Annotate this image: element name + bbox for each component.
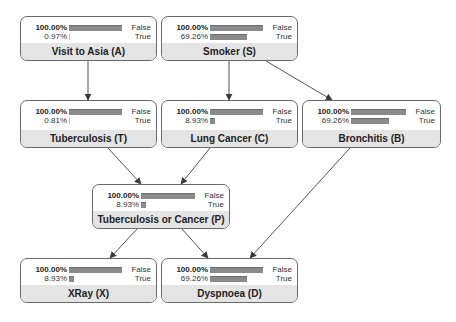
state-row-true: 8.93% True (162, 116, 297, 125)
state-row-false: 100.00% False (21, 23, 156, 32)
belief-bars: 100.00% False 8.93% True (21, 259, 156, 286)
node-p[interactable]: 100.00% False 8.93% True Tuberculosis or… (92, 184, 230, 229)
state-row-true: 0.97% True (21, 32, 156, 41)
state-label: True (276, 116, 292, 125)
node-b[interactable]: 100.00% False 69.26% True Bronchitis (B) (302, 100, 441, 148)
edge-p-to-x (110, 229, 137, 258)
belief-bar (69, 267, 122, 273)
state-label: False (131, 23, 151, 32)
state-label: True (135, 32, 151, 41)
belief-bar (351, 109, 406, 115)
belief-bars: 100.00% False 69.26% True (162, 259, 297, 286)
state-row-false: 100.00% False (162, 107, 297, 116)
state-label: True (276, 274, 292, 283)
state-percent: 8.93% (166, 116, 208, 125)
state-percent: 100.00% (25, 107, 67, 116)
state-row-true: 8.93% True (21, 274, 156, 283)
belief-bar (351, 118, 389, 124)
state-row-true: 8.93% True (93, 200, 229, 209)
node-title: Tuberculosis or Cancer (P) (93, 211, 229, 228)
belief-bars: 100.00% False 0.81% True (21, 101, 156, 128)
belief-bars: 100.00% False 0.97% True (21, 17, 156, 44)
state-percent: 100.00% (25, 265, 67, 274)
belief-bar (69, 25, 122, 31)
state-percent: 100.00% (166, 107, 208, 116)
belief-bar (141, 202, 146, 208)
edge-b-to-d (250, 148, 350, 258)
node-t[interactable]: 100.00% False 0.81% True Tuberculosis (T… (20, 100, 157, 148)
belief-bar (69, 109, 122, 115)
state-percent: 69.26% (166, 274, 208, 283)
state-row-true: 0.81% True (21, 116, 156, 125)
node-d[interactable]: 100.00% False 69.26% True Dyspnoea (D) (161, 258, 298, 303)
state-percent: 100.00% (25, 23, 67, 32)
node-title: Dyspnoea (D) (162, 285, 297, 302)
state-percent: 100.00% (166, 23, 208, 32)
belief-bar (210, 109, 263, 115)
belief-bar (210, 34, 247, 40)
node-x[interactable]: 100.00% False 8.93% True XRay (X) (20, 258, 157, 303)
state-percent: 0.97% (25, 32, 67, 41)
state-label: True (135, 116, 151, 125)
belief-bar (69, 34, 70, 40)
state-row-false: 100.00% False (162, 23, 297, 32)
state-label: False (131, 107, 151, 116)
node-c[interactable]: 100.00% False 8.93% True Lung Cancer (C) (161, 100, 298, 148)
state-percent: 0.81% (25, 116, 67, 125)
state-label: True (419, 116, 435, 125)
state-label: False (204, 191, 224, 200)
state-label: False (131, 265, 151, 274)
state-label: True (208, 200, 224, 209)
belief-bar (210, 118, 215, 124)
edge-s-to-b (266, 61, 332, 100)
belief-bar (141, 193, 195, 199)
node-title: Smoker (S) (162, 43, 297, 60)
node-title: Visit to Asia (A) (21, 43, 156, 60)
state-percent: 100.00% (166, 265, 208, 274)
state-row-false: 100.00% False (21, 107, 156, 116)
state-row-true: 69.26% True (162, 32, 297, 41)
belief-bar (210, 25, 263, 31)
state-row-false: 100.00% False (21, 265, 156, 274)
state-row-false: 100.00% False (162, 265, 297, 274)
state-label: False (415, 107, 435, 116)
belief-bar (210, 267, 263, 273)
node-title: Bronchitis (B) (303, 130, 440, 147)
belief-bars: 100.00% False 8.93% True (162, 101, 297, 128)
state-percent: 8.93% (97, 200, 139, 209)
state-label: True (276, 32, 292, 41)
edge-p-to-d (182, 229, 208, 258)
node-a[interactable]: 100.00% False 0.97% True Visit to Asia (… (20, 16, 157, 61)
state-row-false: 100.00% False (303, 107, 440, 116)
node-title: Tuberculosis (T) (21, 130, 156, 147)
belief-bars: 100.00% False 69.26% True (162, 17, 297, 44)
belief-bar (69, 276, 74, 282)
edge-c-to-p (181, 148, 210, 184)
state-percent: 100.00% (97, 191, 139, 200)
belief-bars: 100.00% False 69.26% True (303, 101, 440, 128)
state-label: True (135, 274, 151, 283)
state-percent: 69.26% (307, 116, 349, 125)
state-percent: 100.00% (307, 107, 349, 116)
state-label: False (272, 23, 292, 32)
belief-bar (210, 276, 247, 282)
node-title: Lung Cancer (C) (162, 130, 297, 147)
belief-bars: 100.00% False 8.93% True (93, 185, 229, 212)
state-percent: 69.26% (166, 32, 208, 41)
belief-bar (69, 118, 70, 124)
state-row-true: 69.26% True (303, 116, 440, 125)
state-label: False (272, 107, 292, 116)
node-title: XRay (X) (21, 285, 156, 302)
state-row-false: 100.00% False (93, 191, 229, 200)
edge-t-to-p (108, 148, 141, 184)
state-row-true: 69.26% True (162, 274, 297, 283)
state-label: False (272, 265, 292, 274)
node-s[interactable]: 100.00% False 69.26% True Smoker (S) (161, 16, 298, 61)
state-percent: 8.93% (25, 274, 67, 283)
